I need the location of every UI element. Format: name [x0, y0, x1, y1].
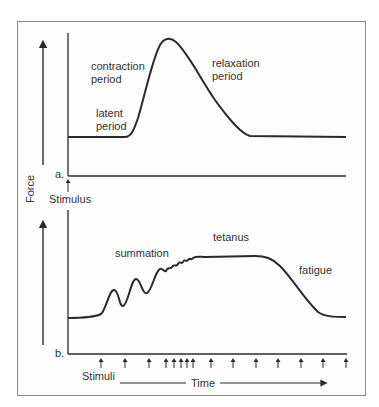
stimuli-label: Stimuli [82, 370, 115, 382]
stimuli-arrows [101, 360, 346, 368]
relaxation-label-2: period [212, 70, 243, 82]
muscle-contraction-diagram: Force a. Stimulus contraction period lat… [0, 0, 379, 407]
time-label: Time [191, 377, 215, 389]
fatigue-label: fatigue [299, 264, 332, 276]
summation-label: summation [115, 247, 169, 259]
relaxation-label: relaxation [212, 57, 260, 69]
tetanus-label: tetanus [213, 231, 250, 243]
latent-label-2: period [96, 120, 127, 132]
panel-b: b. summation tetanus fatigue Stimuli Tim… [55, 210, 347, 389]
panel-a-tag: a. [55, 168, 64, 180]
panel-b-tag: b. [55, 347, 64, 359]
force-axis-label: Force [24, 175, 36, 203]
contraction-label: contraction [91, 60, 145, 72]
contraction-label-2: period [91, 73, 122, 85]
latent-label: latent [96, 107, 123, 119]
panel-a: a. Stimulus contraction period latent pe… [49, 33, 346, 205]
stimulus-label: Stimulus [49, 193, 92, 205]
